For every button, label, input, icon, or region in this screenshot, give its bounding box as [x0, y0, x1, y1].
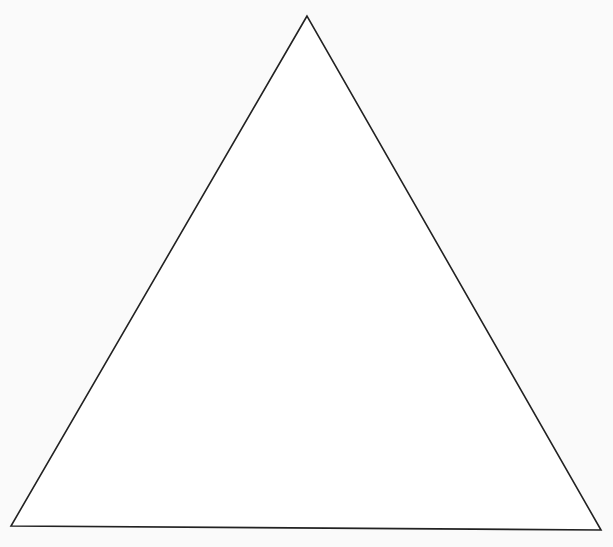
diagram-canvas: [0, 0, 613, 547]
